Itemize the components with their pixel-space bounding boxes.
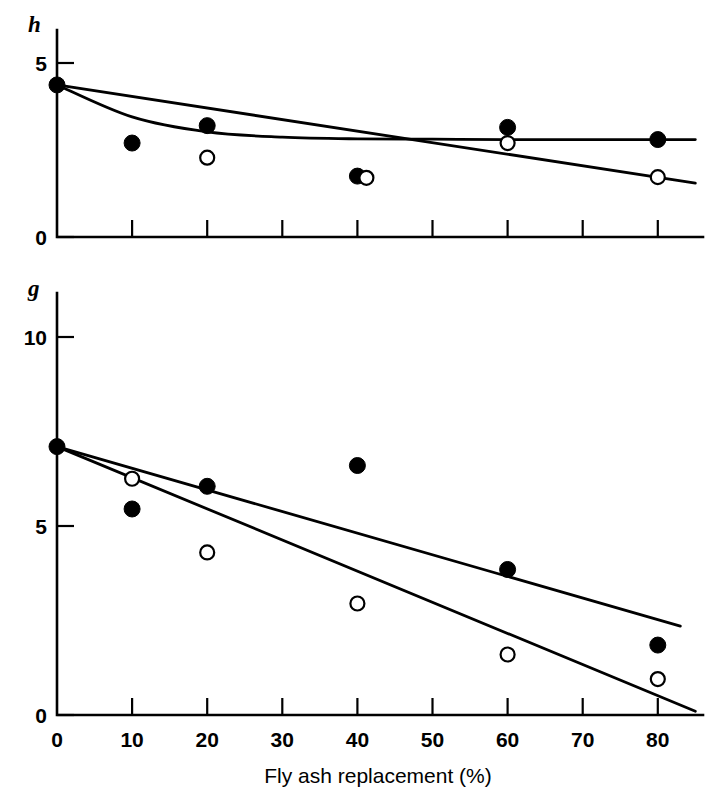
figure-canvas: 05 h 051001020304050607080 g Fly ash rep… — [0, 0, 725, 802]
data-point-open — [501, 136, 515, 150]
panel-bottom-g: 051001020304050607080 g Fly ash replacem… — [24, 276, 703, 787]
data-point-filled — [349, 458, 365, 474]
y-tick-label: 0 — [35, 704, 47, 727]
x-tick-label: 80 — [646, 728, 669, 751]
data-point-open — [200, 545, 214, 559]
x-tick-label: 70 — [571, 728, 594, 751]
fit-open-fit — [57, 447, 695, 712]
data-point-open — [359, 171, 373, 185]
x-tick-label: 30 — [271, 728, 294, 751]
x-tick-label: 10 — [120, 728, 143, 751]
data-point-open — [125, 472, 139, 486]
x-tick-label: 60 — [496, 728, 519, 751]
data-point-filled — [650, 132, 666, 148]
data-point-filled — [49, 77, 65, 93]
bottom-fit-curves — [57, 447, 695, 712]
data-point-filled — [199, 478, 215, 494]
top-fit-curves — [57, 85, 695, 183]
panel-top-h: 05 h — [28, 12, 703, 249]
x-axis-title: Fly ash replacement (%) — [264, 764, 492, 787]
x-tick-label: 40 — [346, 728, 369, 751]
data-point-filled — [199, 118, 215, 134]
bottom-axis-group — [57, 293, 703, 715]
bottom-y-axis-label: g — [27, 276, 40, 301]
data-point-open — [651, 672, 665, 686]
y-tick-label: 5 — [35, 52, 47, 75]
fit-filled-fit — [57, 85, 695, 140]
data-point-open — [651, 170, 665, 184]
axis-spine — [57, 293, 703, 715]
data-point-filled — [49, 439, 65, 455]
y-tick-label: 5 — [35, 515, 47, 538]
y-tick-label: 0 — [35, 226, 47, 249]
fit-filled-fit — [57, 447, 680, 627]
data-point-open — [501, 648, 515, 662]
data-point-filled — [650, 637, 666, 653]
x-tick-label: 50 — [421, 728, 444, 751]
data-point-filled — [124, 135, 140, 151]
y-tick-label: 10 — [24, 326, 47, 349]
data-point-filled — [124, 501, 140, 517]
data-point-filled — [500, 119, 516, 135]
data-point-open — [200, 151, 214, 165]
top-tick-label-group: 05 — [35, 52, 47, 249]
bottom-data-points — [49, 439, 666, 686]
bottom-tick-label-group: 051001020304050607080 — [24, 326, 670, 751]
data-point-open — [350, 596, 364, 610]
fit-open-fit — [57, 85, 695, 183]
top-tick-group — [57, 63, 658, 237]
chart-svg: 05 h 051001020304050607080 g Fly ash rep… — [0, 0, 725, 802]
x-tick-label: 20 — [196, 728, 219, 751]
data-point-filled — [500, 561, 516, 577]
top-y-axis-label: h — [28, 12, 41, 37]
x-tick-label: 0 — [51, 728, 63, 751]
